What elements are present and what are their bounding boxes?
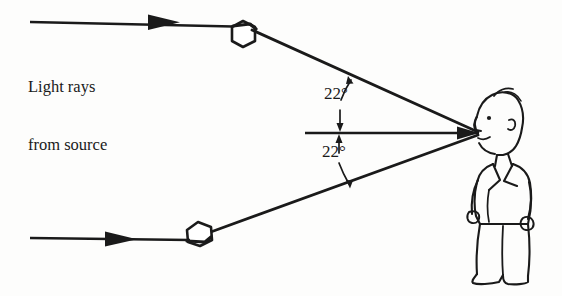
ear-icon (508, 119, 515, 130)
neck-line (495, 155, 497, 166)
incoming-ray-lower (30, 232, 190, 247)
arrowhead-icon (148, 15, 180, 31)
line-of-sight (305, 127, 479, 140)
collar-left (489, 164, 500, 190)
ray-diagram-figure: Light rays from source 22° 22° (0, 0, 562, 296)
jacket-seam (488, 190, 490, 222)
collar-right (504, 164, 517, 186)
arm-right (528, 182, 531, 219)
source-caption-line-1: Light rays (28, 77, 107, 96)
incoming-ray-upper (30, 15, 233, 31)
observer-figure (467, 88, 533, 284)
neck-line-2 (508, 154, 512, 166)
chin-line (479, 143, 495, 154)
source-caption-line-2: from source (28, 135, 107, 154)
refracted-ray-upper (252, 30, 478, 132)
source-caption: Light rays from source (28, 38, 107, 194)
eye-icon (487, 116, 491, 120)
angle-label-upper: 22° (324, 84, 348, 104)
arrowhead-icon (105, 232, 137, 247)
ice-crystal-upper (232, 21, 256, 47)
shoe-left (472, 274, 503, 284)
jacket-body (475, 164, 531, 224)
ice-crystal-lower (187, 222, 212, 246)
trouser-right-outer (528, 224, 530, 276)
trouser-inseam (502, 226, 503, 275)
angle-label-lower: 22° (322, 142, 346, 162)
mouth-line (478, 137, 490, 139)
shoe-right (503, 276, 528, 284)
trouser-left-outer (477, 224, 480, 274)
